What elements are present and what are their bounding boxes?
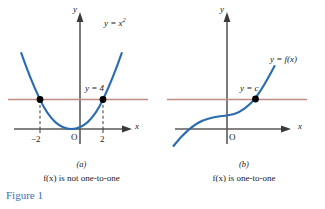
panel-b-caption: f(x) is one-to-one [163,174,325,183]
panel-b-y-axis-label: y [220,5,224,14]
panel-a-intersection-point-right [100,96,107,103]
panel-b-curve-label: y = f(x) [270,55,297,64]
figure-container: y x y = x2 y = 4 −2 2 O (a) f(x) is not … [0,0,325,209]
panel-b-cubic-curve [174,66,275,146]
panel-a-curve-label: y = x2 [104,17,126,28]
panel-b-intersection-point [252,96,259,103]
panel-b-y-axis [224,12,231,144]
panel-b-plot [163,0,325,155]
panel-b-origin-label: O [229,133,236,142]
panel-a-tick-label-neg2: −2 [31,135,41,144]
panel-b-x-axis-label: x [298,122,302,131]
panel-b-letter: (b) [163,160,325,169]
figure-number-label: Figure 1 [6,190,43,201]
panel-a-caption: f(x) is not one-to-one [0,174,163,183]
panel-a-letter: (a) [0,160,163,169]
panel-a-y-axis-label: y [73,5,77,14]
panel-a-parabola-curve [21,53,121,129]
panel-a-tick-label-pos2: 2 [100,135,105,144]
panel-a-plot [0,0,163,155]
panel-a-y-axis [77,12,84,144]
panel-a-origin-label: O [71,133,78,142]
panel-b-level-label: y = c [240,84,259,93]
panel-a-x-axis-label: x [135,122,139,131]
panel-a-level-label: y = 4 [85,84,104,93]
panel-a-intersection-point-left [37,96,44,103]
